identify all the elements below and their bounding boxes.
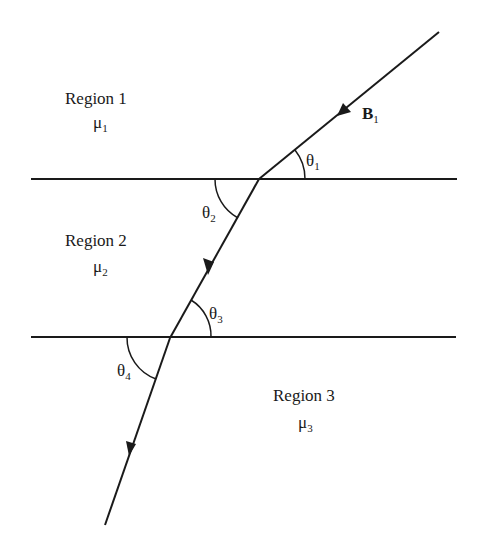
field-label-b1: B1 xyxy=(362,104,379,125)
angle-label-theta-1: θ1 xyxy=(306,151,320,172)
angle-label-theta-4: θ4 xyxy=(117,361,131,382)
field-line-region-1 xyxy=(259,32,439,179)
field-refraction-diagram: Region 1 μ1 Region 2 μ2 Region 3 μ3 B1 θ… xyxy=(0,0,477,559)
region-2-label: Region 2 xyxy=(65,231,127,250)
angle-label-theta-3: θ3 xyxy=(209,304,223,325)
arrowhead-region-3-icon xyxy=(126,441,136,456)
angle-arc-theta-2 xyxy=(215,179,238,218)
region-3-label: Region 3 xyxy=(273,386,335,405)
region-2-permeability: μ2 xyxy=(93,257,108,278)
angle-arc-theta-1 xyxy=(295,150,305,179)
angle-arc-theta-4 xyxy=(127,337,156,379)
angle-label-theta-2: θ2 xyxy=(202,203,216,224)
region-3-permeability: μ3 xyxy=(298,413,313,434)
angle-arc-theta-3 xyxy=(191,300,211,337)
region-1-label: Region 1 xyxy=(65,89,127,108)
region-1-permeability: μ1 xyxy=(93,113,108,134)
